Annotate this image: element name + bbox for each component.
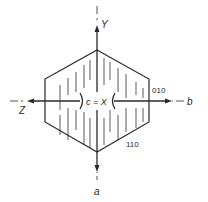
label-face-110: 110 xyxy=(126,140,139,149)
label-b: b xyxy=(187,96,193,107)
label-a: a xyxy=(94,186,100,197)
arrow-right-icon xyxy=(165,99,172,104)
arrow-down-icon xyxy=(95,165,100,172)
arrow-up-icon xyxy=(95,25,100,32)
label-center: c = X xyxy=(86,97,108,107)
label-face-010: 010 xyxy=(152,86,166,95)
label-y: Y xyxy=(101,19,109,30)
crystal-diagram: Y a Z b c = X 010 110 xyxy=(0,0,208,202)
arrow-left-icon xyxy=(27,99,34,104)
left-bracket-icon xyxy=(80,93,83,109)
label-z: Z xyxy=(18,105,26,116)
